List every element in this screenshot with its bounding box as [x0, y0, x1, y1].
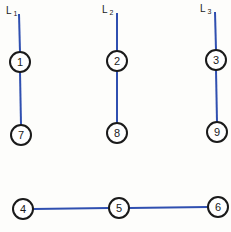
- svg-text:2: 2: [114, 55, 120, 67]
- edge-4-5: [33, 208, 109, 209]
- svg-text:8: 8: [114, 127, 120, 139]
- edge-5-6: [129, 207, 208, 208]
- edge-3-9: [216, 70, 217, 122]
- node-9: 9: [207, 122, 227, 142]
- edge-1-7: [20, 72, 21, 125]
- node-3: 3: [206, 50, 226, 70]
- label-L2: L2: [102, 4, 114, 16]
- node-8: 8: [107, 123, 127, 143]
- svg-text:4: 4: [20, 203, 26, 215]
- svg-text:6: 6: [215, 201, 221, 213]
- node-1: 1: [10, 52, 30, 72]
- edge-L1-1: [19, 14, 20, 52]
- node-4: 4: [13, 199, 33, 219]
- svg-text:3: 3: [213, 54, 219, 66]
- svg-text:7: 7: [18, 129, 24, 141]
- node-5: 5: [109, 198, 129, 218]
- edge-L3-3: [215, 12, 216, 50]
- node-2: 2: [107, 51, 127, 71]
- svg-text:1: 1: [17, 56, 23, 68]
- graph-diagram: L1 L2 L3 1 2 3 4 5 6 7 8 9: [0, 0, 231, 232]
- node-7: 7: [11, 125, 31, 145]
- svg-text:9: 9: [214, 126, 220, 138]
- label-L3: L3: [200, 3, 212, 15]
- svg-text:5: 5: [116, 202, 122, 214]
- node-6: 6: [208, 197, 228, 217]
- label-L1: L1: [6, 5, 18, 17]
